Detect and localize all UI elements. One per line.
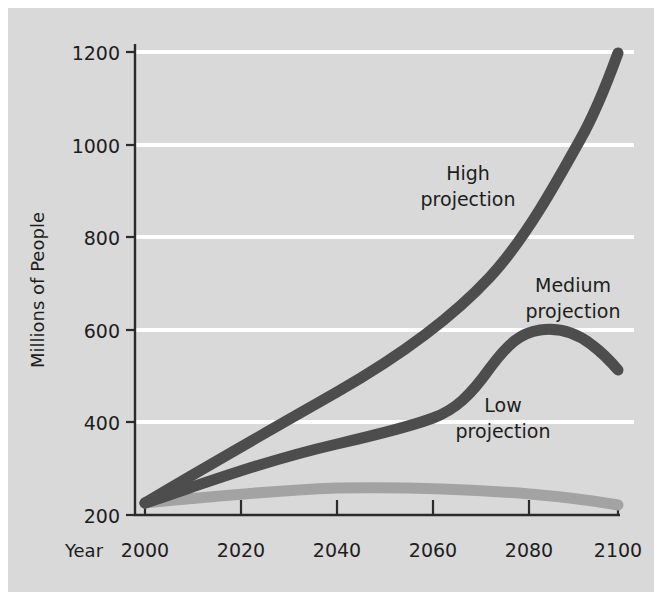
x-tick-label-2020: 2020 xyxy=(217,539,265,561)
annotation-low-line1: Low xyxy=(484,394,521,416)
x-tick-label-2040: 2040 xyxy=(313,539,361,561)
y-tick-label-1000: 1000 xyxy=(72,135,120,157)
projection-line-chart: 1200 1000 800 600 400 200 2000 2020 2040… xyxy=(0,0,662,603)
annotation-high-projection: High projection xyxy=(421,162,516,210)
x-tick-label-2060: 2060 xyxy=(409,539,457,561)
annotation-high-line1: High xyxy=(446,162,490,184)
y-tick-label-400: 400 xyxy=(84,412,120,434)
annotation-medium-projection: Medium projection xyxy=(526,274,621,322)
y-tick-labels: 1200 1000 800 600 400 200 xyxy=(72,42,120,527)
y-tick-label-1200: 1200 xyxy=(72,42,120,64)
x-axis-title: Year xyxy=(64,540,104,561)
y-tick-label-600: 600 xyxy=(84,320,120,342)
y-axis-ticks xyxy=(126,52,135,515)
annotation-medium-line2: projection xyxy=(526,300,621,322)
x-tick-labels: 2000 2020 2040 2060 2080 2100 xyxy=(121,539,642,561)
series-line-medium-projection xyxy=(145,329,618,503)
annotation-low-projection: Low projection xyxy=(456,394,551,442)
x-axis-ticks xyxy=(145,500,618,515)
x-tick-label-2100: 2100 xyxy=(594,539,642,561)
y-tick-label-800: 800 xyxy=(84,227,120,249)
annotation-high-line2: projection xyxy=(421,188,516,210)
series-line-low-projection xyxy=(145,488,618,505)
y-axis-title: Millions of People xyxy=(27,212,48,368)
y-tick-label-200: 200 xyxy=(84,505,120,527)
x-tick-label-2000: 2000 xyxy=(121,539,169,561)
annotation-low-line2: projection xyxy=(456,420,551,442)
population-projection-figure: 1200 1000 800 600 400 200 2000 2020 2040… xyxy=(0,0,662,603)
x-tick-label-2080: 2080 xyxy=(505,539,553,561)
annotation-medium-line1: Medium xyxy=(535,274,611,296)
